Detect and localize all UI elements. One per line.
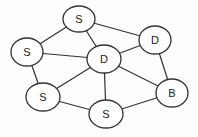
node-label: D (100, 53, 108, 65)
node-d-n2: D (139, 26, 171, 54)
network-diagram: SDSDSBS (0, 0, 198, 137)
node-s-n5: S (26, 83, 60, 111)
graph-canvas: SDSDSBS (0, 0, 198, 137)
node-s-n3: S (11, 38, 43, 66)
node-label: D (151, 34, 159, 46)
node-b-n6: B (156, 79, 188, 107)
node-label: B (168, 87, 175, 99)
node-label: S (23, 46, 30, 58)
node-label: S (75, 13, 82, 25)
node-label: S (39, 91, 46, 103)
node-s-n7: S (89, 100, 123, 128)
node-d-n4: D (87, 45, 121, 73)
node-s-n1: S (63, 6, 95, 32)
node-label: S (102, 108, 109, 120)
